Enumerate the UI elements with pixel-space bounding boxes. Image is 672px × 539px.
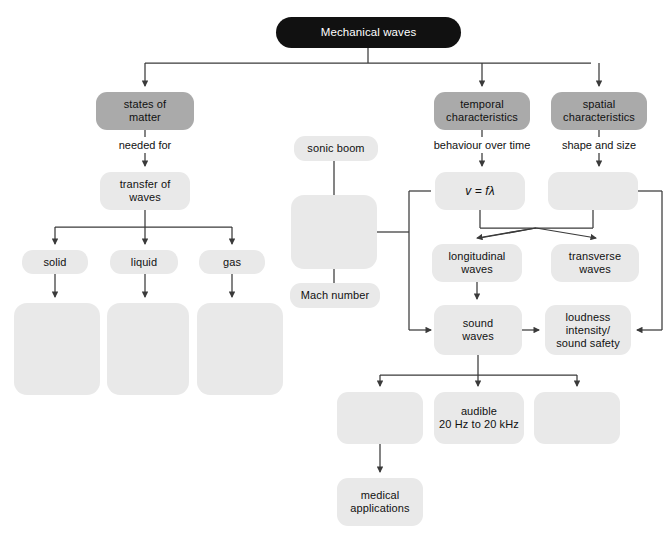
node-blank-speed-of-sound[interactable] [291,195,377,269]
edge-label-needed-for: needed for [102,139,188,152]
node-solid[interactable]: solid [22,250,88,274]
edge-label-text: shape and size [562,139,636,151]
edge-label-text: behaviour over time [434,139,531,151]
node-states-of-matter[interactable]: states ofmatter [96,92,194,130]
node-temporal-characteristics[interactable]: temporalcharacteristics [434,92,530,130]
node-liquid[interactable]: liquid [110,250,178,274]
node-label: spatialcharacteristics [563,98,635,124]
node-blank-under-gas[interactable] [197,303,283,395]
node-spatial-characteristics[interactable]: spatialcharacteristics [551,92,647,130]
node-label: states ofmatter [124,98,166,124]
node-sound-waves[interactable]: soundwaves [434,305,522,355]
node-label: medicalapplications [350,489,409,515]
node-wave-equation[interactable]: v = fλ [435,172,525,210]
node-loudness-intensity-sound-safety[interactable]: loudnessintensity/sound safety [545,305,631,355]
node-blank-spatial[interactable] [548,172,638,210]
node-label: v = fλ [465,185,495,198]
node-transverse-waves[interactable]: transversewaves [551,244,639,282]
node-label: loudnessintensity/sound safety [556,311,620,350]
concept-map-canvas: Mechanical waves states ofmatter tempora… [0,0,672,539]
node-label: audible20 Hz to 20 kHz [439,405,519,431]
node-label: gas [223,256,241,269]
node-label: solid [43,256,66,269]
node-label: longitudinalwaves [449,250,506,276]
node-blank-under-solid[interactable] [14,303,100,395]
node-label: temporalcharacteristics [446,98,518,124]
node-blank-under-liquid[interactable] [107,303,189,395]
node-audible-range[interactable]: audible20 Hz to 20 kHz [434,392,524,444]
node-label: transversewaves [569,250,621,276]
node-sonic-boom[interactable]: sonic boom [294,136,378,161]
node-label: transfer ofwaves [120,178,171,204]
node-medical-applications[interactable]: medicalapplications [337,478,423,526]
node-label: Mach number [301,289,369,302]
node-mach-number[interactable]: Mach number [290,283,380,308]
node-root[interactable]: Mechanical waves [276,17,461,48]
node-label: liquid [131,256,157,269]
edge-label-behaviour-over-time: behaviour over time [422,139,542,152]
node-gas[interactable]: gas [199,250,265,274]
node-transfer-of-waves[interactable]: transfer ofwaves [100,172,190,210]
node-label: soundwaves [462,317,494,343]
node-label: Mechanical waves [321,26,417,39]
node-longitudinal-waves[interactable]: longitudinalwaves [432,244,522,282]
edge-label-text: needed for [119,139,172,151]
node-blank-bottom-left[interactable] [337,392,423,444]
node-label: sonic boom [307,142,364,155]
node-blank-bottom-right[interactable] [534,392,620,444]
edge-label-shape-and-size: shape and size [553,139,645,152]
